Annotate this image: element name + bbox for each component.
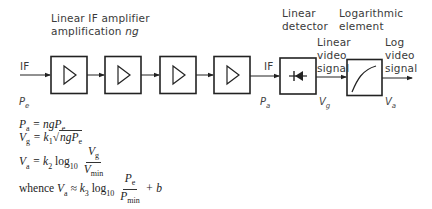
amplifier-title: Linear IF amplifier amplification ng (51, 12, 150, 38)
linear-detector-box (280, 58, 316, 94)
amplifier-stage-4 (214, 57, 250, 94)
equation-whence: whence Va ≈ k3 log10 PePmin + b (19, 172, 162, 208)
linear-video-signal-label: Linear video signal (317, 36, 351, 75)
detector-label: Linear detector (282, 7, 328, 33)
vg-label: Vg (319, 96, 330, 110)
amp-output-if-label: IF (264, 60, 274, 73)
logarithmic-element-box (347, 60, 382, 96)
amp-output-power-label: Pa (260, 96, 270, 110)
va-label: Va (385, 96, 396, 110)
amplifier-stage-3 (160, 57, 196, 94)
amplifier-stage-2 (105, 57, 141, 94)
amplifier-stage-1 (51, 57, 87, 94)
log-video-signal-label: Log video signal (385, 36, 417, 75)
input-power-label: Pe (19, 96, 29, 110)
input-if-label: IF (20, 60, 30, 73)
log-element-label: Logarithmic element (339, 7, 403, 33)
